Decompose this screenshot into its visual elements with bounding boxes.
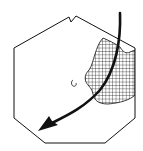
diagram [0,0,143,151]
arrowhead-icon [38,116,58,131]
center-mark-icon [72,80,77,86]
